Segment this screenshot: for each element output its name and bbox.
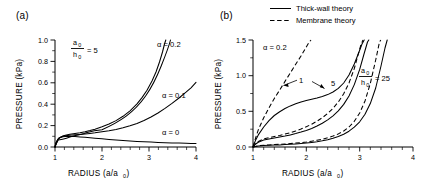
panel-b-y-ticks	[249, 40, 254, 147]
panel-b: (b) Thick-wall theory Membrane theory	[213, 0, 427, 187]
panel-a-xtick-3: 4	[194, 153, 198, 162]
svg-text:a: a	[73, 38, 77, 47]
panel-b-alpha-annotation: α = 0.2	[263, 43, 287, 52]
curve-r25-membrane	[253, 40, 381, 147]
svg-text:PRESSURE (kPa): PRESSURE (kPa)	[15, 59, 24, 129]
panel-b-x-axis-title: RADIUS (a/a 0 )	[282, 169, 344, 179]
panel-a-ytick-4: 0.8	[38, 57, 48, 66]
curve-r5-membrane	[253, 40, 363, 147]
panel-a-curve-label-0: α = 0.2	[157, 40, 181, 49]
panel-b-label: (b)	[220, 10, 233, 21]
panel-b-xtick-2: 3	[358, 153, 362, 162]
panel-a-x-ticks	[55, 147, 196, 152]
panel-a-y-axis-title: PRESSURE (kPa)	[15, 59, 24, 129]
panel-a-curve-label-2: α = 0	[162, 128, 179, 137]
curve-alpha-0	[55, 136, 196, 147]
panel-b-ratio-annotation: a 0 h 0 = 25	[359, 66, 390, 88]
panel-b-y-tick-labels: 0.0 0.5 1.0 1.5	[236, 36, 246, 152]
panel-b-ytick-1: 0.5	[236, 107, 246, 116]
panel-b-ytick-3: 1.5	[236, 36, 246, 45]
panel-a-ytick-2: 0.4	[38, 100, 48, 109]
panel-b-plot: Thick-wall theory Membrane theory 0.0 0.…	[213, 0, 427, 187]
svg-text:0: 0	[78, 42, 81, 48]
svg-text:RADIUS (a/a: RADIUS (a/a	[68, 169, 118, 178]
panel-a-xlabel-close: )	[127, 169, 130, 178]
panel-b-x-ticks	[253, 147, 413, 152]
legend: Thick-wall theory Membrane theory	[270, 4, 356, 25]
legend-label-0: Thick-wall theory	[296, 4, 353, 13]
panel-a-label: (a)	[16, 10, 29, 21]
svg-text:0: 0	[78, 54, 81, 60]
panel-a-xtick-0: 1	[53, 153, 57, 162]
arrowhead	[320, 84, 325, 89]
panel-b-xtick-0: 1	[251, 153, 255, 162]
panel-a-ytick-3: 0.6	[38, 78, 48, 87]
panel-b-curve-label-1: 5	[331, 79, 335, 88]
svg-text:= 5: = 5	[87, 46, 98, 55]
panel-a-xtick-2: 3	[147, 153, 151, 162]
svg-text:0: 0	[366, 70, 369, 76]
svg-text:PRESSURE (kPa): PRESSURE (kPa)	[214, 59, 223, 129]
panel-a-curve-label-1: α = 0.1	[162, 91, 186, 100]
figure-root: (a) 0.0	[0, 0, 427, 187]
svg-text:h: h	[361, 78, 365, 87]
panel-a-y-ticks	[51, 40, 56, 147]
panel-a-x-tick-labels: 1 2 3 4	[53, 153, 198, 162]
panel-a-ratio-annotation: a 0 h 0 = 5	[71, 38, 98, 60]
curve-r1-membrane	[253, 40, 311, 147]
panel-b-y-axis-title: PRESSURE (kPa)	[214, 59, 223, 129]
panel-a-y-tick-labels: 0.0 0.2 0.4 0.6 0.8 1.0	[38, 36, 48, 152]
panel-a-ytick-5: 1.0	[38, 36, 48, 45]
curve-r1-thickwall	[253, 40, 364, 147]
panel-a: (a) 0.0	[0, 0, 213, 187]
panel-b-ytick-2: 1.0	[236, 71, 246, 80]
panel-b-ytick-0: 0.0	[236, 143, 246, 152]
panel-a-ytick-0: 0.0	[38, 143, 48, 152]
panel-a-xtick-1: 2	[100, 153, 104, 162]
curve-r5-thickwall	[253, 40, 369, 147]
panel-b-xtick-3: 4	[411, 153, 415, 162]
panel-b-x-tick-labels: 1 2 3 4	[251, 153, 415, 162]
panel-b-leader-5	[312, 82, 325, 89]
panel-b-xlabel-close: )	[341, 169, 344, 178]
panel-b-xtick-1: 2	[304, 153, 308, 162]
svg-text:h: h	[73, 50, 77, 59]
panel-a-x-axis-title: RADIUS (a/a 0 )	[68, 169, 130, 179]
panel-a-plot: 0.0 0.2 0.4 0.6 0.8 1.0	[0, 0, 213, 187]
legend-label-1: Membrane theory	[296, 16, 356, 25]
svg-text:a: a	[361, 66, 365, 75]
svg-text:RADIUS (a/a: RADIUS (a/a	[282, 169, 332, 178]
panel-b-curve-label-0: 1	[299, 76, 303, 85]
panel-a-ytick-1: 0.2	[38, 121, 48, 130]
